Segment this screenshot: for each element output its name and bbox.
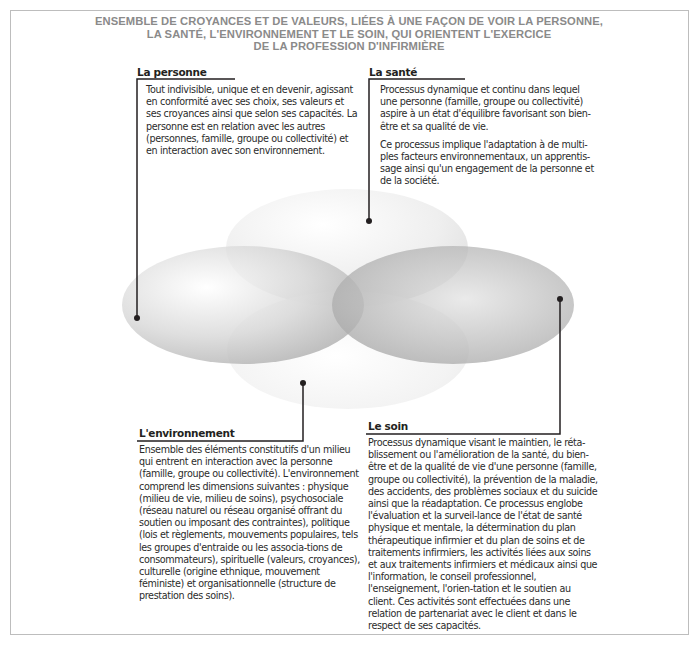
dot-environnement [300, 380, 306, 386]
paragraph-sante-1: Processus dynamique et continu dans lequ… [380, 84, 594, 133]
dot-personne [134, 315, 140, 321]
text-environnement: Ensemble des éléments constitutifs d'un … [139, 444, 364, 603]
paragraph-environnement-1: Ensemble des éléments constitutifs d'un … [139, 444, 364, 603]
paragraph-personne-1: Tout indivisible, unique et en devenir, … [146, 84, 358, 157]
dot-sante [366, 218, 372, 224]
heading-sante: La santé [369, 66, 417, 79]
heading-environnement: L'environnement [139, 427, 234, 440]
paragraph-sante-2: Ce processus implique l'adaptation à de … [380, 139, 594, 188]
text-personne: Tout indivisible, unique et en devenir, … [146, 84, 358, 157]
ellipse-soin [332, 246, 574, 364]
text-sante: Processus dynamique et continu dans lequ… [380, 84, 594, 188]
heading-soin: Le soin [368, 420, 408, 433]
text-soin: Processus dynamique visant le maintien, … [368, 437, 600, 632]
paragraph-soin-1: Processus dynamique visant le maintien, … [368, 437, 600, 632]
heading-personne: La personne [137, 66, 206, 79]
ellipse-personne [122, 246, 364, 364]
dot-soin [557, 296, 563, 302]
